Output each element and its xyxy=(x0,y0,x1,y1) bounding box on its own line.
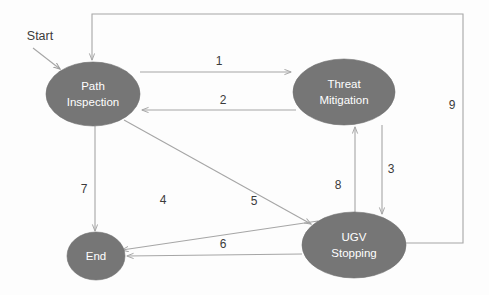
edge-label-3: 3 xyxy=(388,162,395,176)
node-ugv-stopping-label-line1: UGV xyxy=(342,231,367,243)
node-ugv-stopping-label-line2: Stopping xyxy=(331,247,376,259)
edge-label-5: 5 xyxy=(251,194,258,208)
edge-6-path xyxy=(127,254,302,256)
edge-label-1: 1 xyxy=(216,54,223,68)
start-arrow xyxy=(33,48,60,69)
node-path-inspection-label-line2: Inspection xyxy=(67,96,119,108)
state-diagram: Path Inspection Threat Mitigation UGV St… xyxy=(0,0,489,295)
node-path-inspection[interactable] xyxy=(46,62,140,126)
edge-5-path xyxy=(124,120,311,224)
edge-label-9: 9 xyxy=(449,98,456,112)
node-threat-mitigation-label-line2: Mitigation xyxy=(319,94,368,106)
diagram-canvas: Path Inspection Threat Mitigation UGV St… xyxy=(0,0,489,295)
node-path-inspection-label-line1: Path xyxy=(81,80,105,92)
edge-label-7: 7 xyxy=(81,182,88,196)
node-threat-mitigation[interactable] xyxy=(293,59,395,125)
edge-label-6: 6 xyxy=(220,237,227,251)
node-threat-mitigation-label-line1: Threat xyxy=(327,78,361,90)
edge-label-2: 2 xyxy=(220,93,227,107)
edge-label-8: 8 xyxy=(335,178,342,192)
edge-label-4: 4 xyxy=(160,193,167,207)
node-ugv-stopping[interactable] xyxy=(302,212,406,278)
edge-9-path xyxy=(92,14,463,243)
start-label: Start xyxy=(27,29,54,43)
node-end-label: End xyxy=(86,250,106,262)
